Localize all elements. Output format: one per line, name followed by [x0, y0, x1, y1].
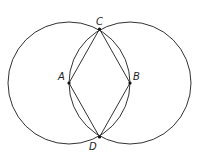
segment-da — [69, 83, 100, 137]
point-d — [98, 135, 101, 138]
point-c — [98, 27, 101, 30]
segment-bd — [100, 83, 131, 137]
segment-ac — [69, 29, 100, 83]
point-b — [128, 81, 131, 84]
diagram-canvas: A B C D — [0, 0, 199, 157]
segment-cb — [100, 29, 131, 83]
label-d: D — [89, 141, 97, 152]
label-c: C — [96, 16, 103, 27]
rhombus-acbd — [69, 29, 130, 137]
point-a — [67, 81, 70, 84]
points — [67, 27, 131, 138]
label-a: A — [57, 71, 65, 82]
label-b: B — [133, 71, 140, 82]
